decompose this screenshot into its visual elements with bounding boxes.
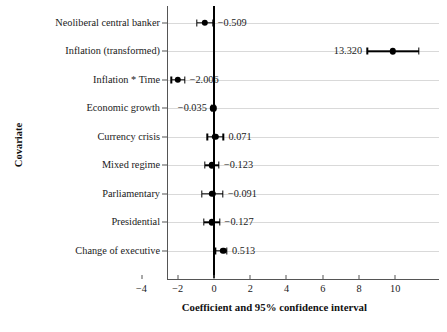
x-axis-tick-label: 10	[390, 283, 400, 294]
x-axis-tick-label: 0	[211, 283, 216, 294]
category-label-9: Change of executive	[75, 245, 160, 255]
category-label-1: Neoliberal central banker	[55, 18, 160, 28]
x-axis-tick	[395, 275, 396, 279]
x-axis-tick	[214, 275, 215, 279]
coefficient-value-label: −0.509	[218, 18, 247, 28]
category-label-4: Economic growth	[87, 103, 161, 113]
confidence-interval-cap-low	[196, 20, 197, 27]
zero-reference-line	[213, 6, 214, 278]
row-gridline	[167, 108, 439, 109]
confidence-interval-cap-high	[418, 48, 419, 55]
x-axis-tick	[177, 275, 178, 279]
x-axis-tick	[141, 275, 142, 279]
confidence-interval-cap-low	[171, 76, 172, 83]
coefficient-marker	[174, 77, 180, 83]
confidence-interval-cap-low	[201, 190, 202, 197]
category-label-7: Parliamentary	[102, 189, 160, 199]
coefficient-marker	[202, 20, 208, 26]
confidence-interval-cap-high	[219, 219, 220, 226]
x-axis-tick-label: 8	[356, 283, 361, 294]
confidence-interval-cap-low	[206, 133, 207, 140]
coefficient-value-label: −0.035	[178, 103, 207, 113]
x-axis-tick	[286, 275, 287, 279]
category-label-3: Inflation * Time	[93, 75, 160, 85]
x-axis-tick	[358, 275, 359, 279]
confidence-interval-cap-high	[223, 133, 224, 140]
coefficient-value-label: −0.123	[224, 160, 253, 170]
category-label-8: Presidential	[111, 217, 160, 227]
x-axis-title: Coefficient and 95% confidence interval	[182, 301, 367, 313]
x-axis-tick	[322, 275, 323, 279]
x-axis-tick-label: −4	[136, 283, 147, 294]
coefficient-plot: CovariateNeoliberal central bankerInflat…	[0, 0, 447, 332]
coefficient-value-label: −0.091	[228, 189, 257, 199]
confidence-interval-cap-high	[226, 247, 227, 254]
category-label-column: Neoliberal central bankerInflation (tran…	[0, 0, 160, 290]
category-label-2: Inflation (transformed)	[65, 46, 160, 56]
x-axis-tick-label: −2	[172, 283, 183, 294]
y-axis-line	[167, 6, 168, 279]
coefficient-value-label: 0.513	[232, 245, 255, 255]
x-axis-line	[167, 279, 439, 280]
confidence-interval-cap-high	[222, 190, 223, 197]
confidence-interval-cap-low	[215, 247, 216, 254]
category-label-5: Currency crisis	[97, 132, 160, 142]
confidence-interval-cap-low	[366, 48, 367, 55]
category-label-6: Mixed regime	[102, 160, 160, 170]
x-axis-tick-label: 2	[248, 283, 253, 294]
confidence-interval-cap-high	[184, 76, 185, 83]
confidence-interval-cap-low	[203, 219, 204, 226]
confidence-interval-cap-high	[218, 162, 219, 169]
x-axis-tick	[250, 275, 251, 279]
confidence-interval-cap-low	[204, 162, 205, 169]
coefficient-value-label: −0.127	[225, 217, 254, 227]
x-axis-tick-label: 4	[284, 283, 289, 294]
x-axis-tick-label: 6	[320, 283, 325, 294]
coefficient-value-label: 13.320	[334, 46, 362, 56]
row-gridline	[167, 251, 439, 252]
coefficient-value-label: 0.071	[228, 132, 251, 142]
coefficient-marker	[390, 48, 396, 54]
